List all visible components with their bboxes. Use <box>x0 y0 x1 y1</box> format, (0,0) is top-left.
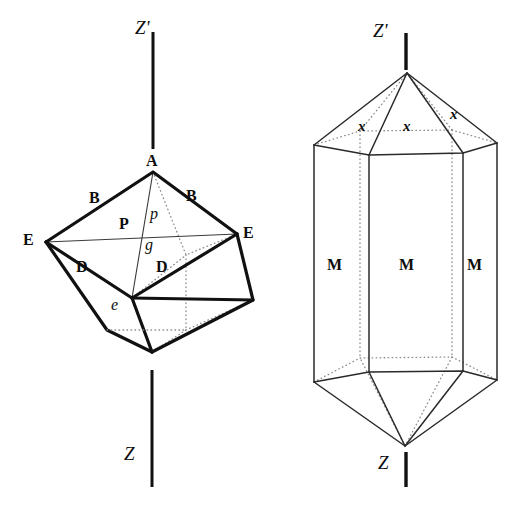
right-top-front-hexagon-rim <box>314 143 497 155</box>
right-pyramid-apex-to-front-left <box>369 73 407 155</box>
left-label-face-P: P <box>119 215 129 233</box>
right-hidden-bottom-apex-to-back-right <box>405 357 452 446</box>
right-bottom-pyramid-outer-slopes <box>314 380 497 446</box>
crystal-drawing-canvas <box>0 0 523 514</box>
left-label-plane-g: g <box>145 236 153 254</box>
left-label-edge-e: e <box>111 296 118 314</box>
crystal-figure: Z' Z A B B E E D D P p g e Z' Z x x x M … <box>0 0 523 514</box>
left-label-plane-p: p <box>150 205 158 223</box>
left-axis-top-label: Z' <box>135 17 150 39</box>
right-bottom-apex-to-front-left <box>369 372 405 446</box>
left-label-face-B-left: B <box>89 189 100 207</box>
right-pyramid-label-x-3: x <box>450 106 458 123</box>
right-axis-top-label: Z' <box>373 20 388 42</box>
right-prism-label-M-1: M <box>327 256 342 274</box>
right-pyramid-label-x-1: x <box>358 118 366 135</box>
right-pyramid-label-x-2: x <box>403 118 411 135</box>
right-bottom-front-hexagon-rim <box>314 371 497 382</box>
left-label-vertex-E-left: E <box>23 231 34 249</box>
right-prism-label-M-3: M <box>467 256 482 274</box>
left-interior-line-apex-to-e <box>132 172 153 298</box>
left-label-apex-A: A <box>146 152 158 170</box>
right-bottom-apex-to-front-right <box>405 371 463 446</box>
right-hidden-bottom-back-hexagon <box>314 357 497 382</box>
left-edge-top-rhombus-upper <box>46 172 237 242</box>
left-label-face-B-right: B <box>186 187 197 205</box>
left-label-face-D-left: D <box>76 258 88 276</box>
left-label-vertex-E-right: E <box>243 224 254 242</box>
left-edge-bottom-right-ridge <box>132 298 253 300</box>
right-axis-bottom-label: Z <box>378 452 389 474</box>
left-label-face-D-right: D <box>156 258 168 276</box>
right-prism-label-M-2: M <box>399 256 414 274</box>
left-axis-bottom-label: Z <box>124 443 135 465</box>
left-edge-right-side <box>152 234 253 352</box>
